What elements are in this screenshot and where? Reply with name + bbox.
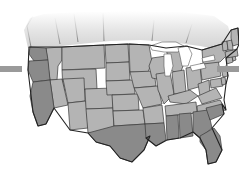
state-SD [106,62,130,81]
edge-bar-right [217,66,239,72]
state-MT [62,45,105,70]
state-OK [113,110,145,126]
state-MS [166,115,179,140]
edge-bar-left [0,66,22,72]
state-ND [105,44,129,63]
state-MN [129,44,152,72]
us-map-figure [0,0,239,179]
state-DE [221,77,226,85]
us-map-svg [0,0,239,179]
state-AL [179,113,193,138]
state-KS [112,94,139,111]
state-AR [143,105,164,124]
state-OR [28,60,50,82]
state-AZ [68,101,88,130]
state-NE [106,80,135,95]
state-IN [172,70,186,94]
